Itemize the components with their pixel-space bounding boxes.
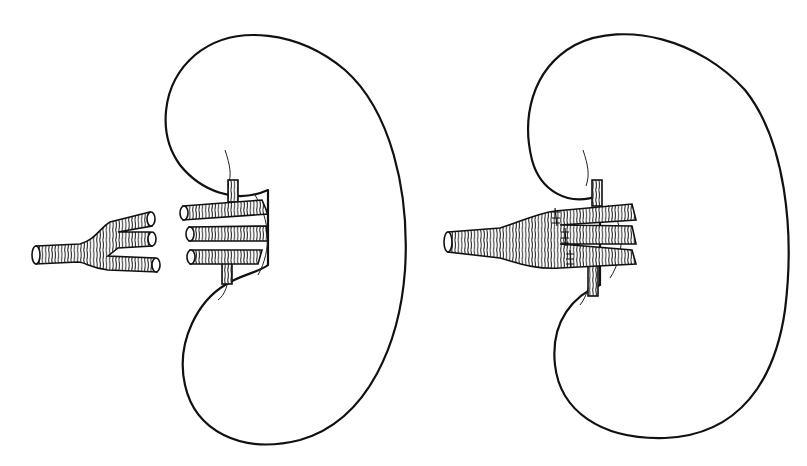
vessel-upper-branch xyxy=(228,180,238,202)
medical-illustration xyxy=(0,0,807,466)
trifurcated-graft xyxy=(32,212,160,272)
vessel-upper-branch-right xyxy=(592,180,602,206)
right-panel xyxy=(444,34,789,438)
left-panel xyxy=(32,35,406,444)
vessel-lower-branch xyxy=(222,262,232,284)
illustration-svg xyxy=(0,0,807,466)
renal-artery-stumps xyxy=(180,200,268,264)
anastomosed-graft xyxy=(444,204,636,268)
